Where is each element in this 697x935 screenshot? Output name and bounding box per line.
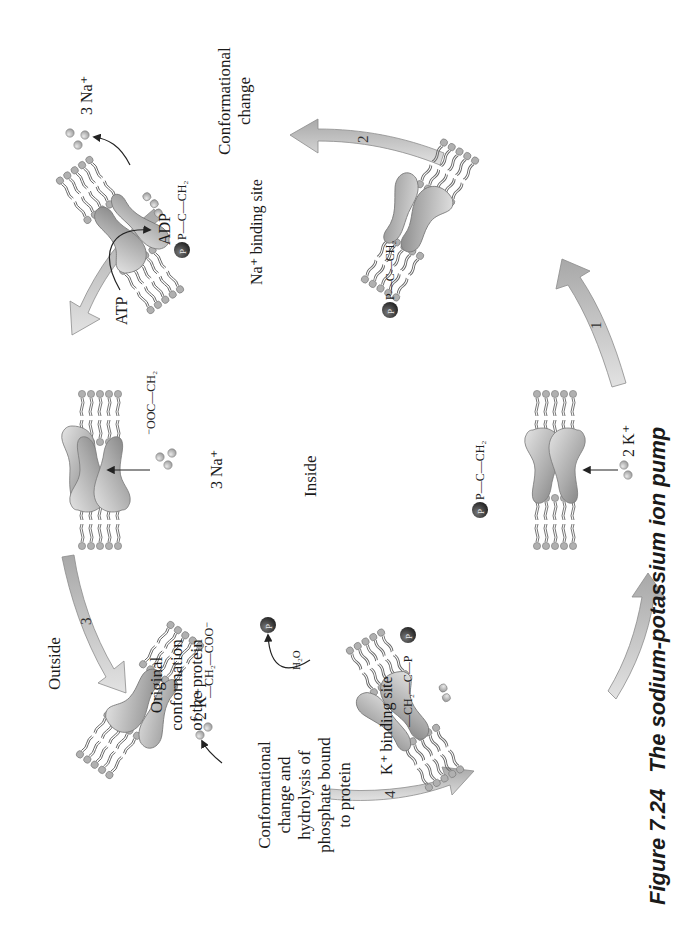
na-ions-out (66, 129, 89, 149)
na-out-label: 3 Na⁺ (78, 76, 95, 115)
atp-label: ATP (113, 296, 130, 325)
svg-text:P: P (386, 309, 396, 314)
svg-text:Conformational: Conformational (255, 741, 274, 849)
na-release-arrow (94, 137, 130, 165)
step-3-number: 3 (78, 618, 94, 626)
svg-text:Conformational: Conformational (215, 47, 234, 155)
hydrolysis-arrow (268, 635, 310, 668)
svg-text:change and: change and (275, 756, 294, 833)
acylphosphate-4: —CH₂—C—P (401, 655, 415, 728)
svg-text:P: P (476, 509, 486, 514)
caption-title: The sodium-potassium ion pump (645, 427, 670, 773)
pump-state-k-entry (525, 390, 585, 549)
pi-ball: P (260, 617, 276, 633)
svg-text:Original: Original (147, 656, 166, 713)
h2o-label: H₂O (290, 650, 302, 670)
outside-label: Outside (45, 637, 64, 690)
svg-text:hydrolysis of: hydrolysis of (295, 750, 314, 840)
svg-text:Figure 7.24 The sodium-p: Figure 7.24 The sodium-potassium ion pum… (645, 427, 670, 905)
diagram-stage: 1 2 3 4 (0, 0, 697, 935)
step-1-number: 1 (588, 322, 604, 330)
k-release-arrow (202, 741, 222, 763)
acylphosphate-1: P—C—CH₂ (175, 180, 189, 240)
phosphate-ball-2: P (382, 302, 398, 318)
step-3-arrow (62, 555, 126, 693)
phosphate-groups: P P P P P (174, 242, 488, 643)
phosphate-ball-4: P (400, 627, 416, 643)
svg-text:phosphate bound: phosphate bound (315, 737, 334, 853)
na-in-label: 3 Na⁺ (208, 450, 225, 489)
na-binding-site-label: Na⁺ binding site (248, 179, 266, 285)
adp-label: ADP (156, 213, 173, 245)
svg-text:to protein: to protein (335, 762, 354, 828)
caption-number: Figure 7.24 (645, 789, 670, 905)
step-2-label: Conformational change (215, 47, 254, 155)
k-ions-in (620, 461, 632, 479)
acylphosphate-3: P—C—CH₂ (473, 440, 487, 500)
k-in-label: 2 K⁺ (620, 425, 637, 457)
svg-text:P: P (264, 624, 274, 629)
sodium-potassium-pump-diagram: 1 2 3 4 (0, 0, 697, 935)
step-2-number: 2 (355, 136, 371, 144)
phosphate-ball-1: P (174, 242, 190, 258)
svg-text:of the protein: of the protein (187, 639, 206, 731)
figure-caption: Figure 7.24 The sodium-potassium ion pum… (645, 427, 670, 905)
acylphosphate-2: P—C—CH₂ (383, 240, 397, 300)
svg-text:P: P (404, 634, 414, 639)
na-ions-in (156, 449, 176, 469)
svg-text:conformation: conformation (167, 639, 186, 731)
svg-text:P: P (178, 249, 188, 254)
carboxylate-left: ⁻OOC—CH₂ (144, 371, 158, 435)
inside-label: Inside (301, 455, 320, 497)
phosphate-ball-3: P (472, 502, 488, 518)
step-4-number: 4 (382, 790, 398, 798)
step-4-label: Conformational change and hydrolysis of … (255, 737, 354, 853)
svg-text:change: change (235, 77, 254, 125)
k-binding-site-label: K⁺ binding site (378, 676, 396, 775)
